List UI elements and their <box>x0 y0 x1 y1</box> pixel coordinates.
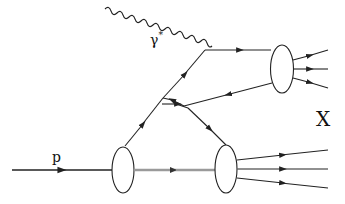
antiquark-return-tail <box>184 94 230 106</box>
parton-segment <box>141 98 163 126</box>
upper-jet-1-tail <box>308 50 328 56</box>
antiquark-return-line <box>228 83 272 95</box>
parton-from-proton <box>125 124 143 146</box>
final-state-label: X <box>316 107 331 131</box>
lower-jet-1 <box>237 155 283 160</box>
upper-jet-1 <box>293 56 310 61</box>
quark-to-vertex <box>163 74 185 98</box>
upper-jet-3-tail <box>308 82 328 88</box>
photon-label: γ* <box>150 30 163 48</box>
spectator-tail <box>208 127 226 145</box>
feynman-diagram: γ* p X <box>0 0 345 204</box>
proton-blob <box>112 147 134 193</box>
proton-label: p <box>52 149 61 165</box>
upper-hadron-blob <box>271 45 294 93</box>
lower-jet-3-tail <box>281 183 328 188</box>
remnant-arrow-icon <box>170 167 177 173</box>
lower-jet-3 <box>237 178 283 183</box>
spectator-to-lower-blob <box>188 108 210 129</box>
upper-jet-3 <box>293 78 310 83</box>
virtual-photon-line <box>105 7 212 47</box>
quark-to-vertex-tail <box>183 50 205 76</box>
crossing-upper-tail <box>163 98 172 100</box>
lower-hadron-blob <box>215 145 237 193</box>
lower-jet-1-tail <box>281 150 328 155</box>
